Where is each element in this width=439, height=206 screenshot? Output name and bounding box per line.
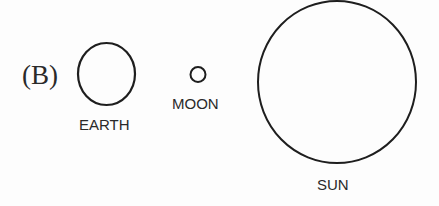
bodies-drawing [0,0,439,206]
moon-circle [191,67,206,82]
diagram-earth-moon-sun: (B) EARTH MOON SUN [0,0,439,206]
earth-label: EARTH [79,117,130,132]
sun-label: SUN [317,177,349,192]
sun-circle [258,1,416,163]
earth-circle [78,43,135,105]
moon-label: MOON [172,96,219,111]
